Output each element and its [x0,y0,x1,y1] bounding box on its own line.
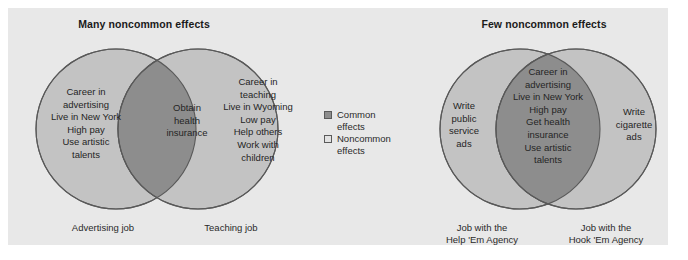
panel-few-noncommon-effects: Few noncommon effects Write public servi… [420,8,668,245]
set-label-teaching-job: Teaching job [176,222,286,234]
set-label-advertising-job: Advertising job [48,222,158,234]
region-overlap-few: Career in advertising Live in New York H… [482,66,614,167]
region-right-only-many: Career in teaching Live in Wyoming Low p… [208,76,308,164]
region-left-only-many: Career in advertising Live in New York H… [32,86,140,162]
legend-label-common: Common effects [337,109,376,132]
noncommon-swatch-icon [324,135,332,143]
common-swatch-icon [324,111,332,119]
region-right-only-few: Write cigarette ads [604,106,664,144]
legend-label-noncommon: Noncommon effects [337,133,391,156]
region-overlap-many: Obtain health insurance [160,102,214,140]
panel-many-noncommon-effects: Many noncommon effects Career in adverti… [8,8,338,245]
panel-title-many: Many noncommon effects [8,18,280,30]
legend-item-noncommon: Noncommon effects [324,133,420,156]
legend: Common effects Noncommon effects [324,109,420,157]
set-label-help-em-agency: Job with the Help 'Em Agency [420,222,544,246]
set-label-hook-em-agency: Job with the Hook 'Em Agency [544,222,668,246]
legend-item-common: Common effects [324,109,420,132]
panel-title-few: Few noncommon effects [420,18,668,30]
venn-figure: Many noncommon effects Career in adverti… [8,8,668,245]
